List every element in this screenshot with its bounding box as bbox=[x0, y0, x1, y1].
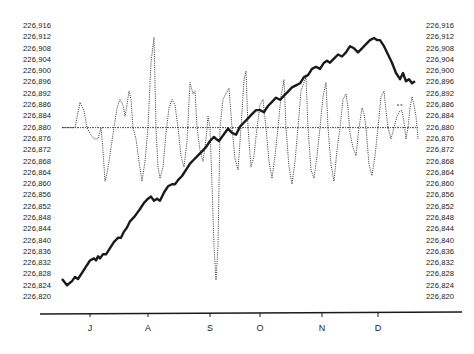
x-tick-label: N bbox=[312, 323, 332, 333]
x-tick-label: D bbox=[368, 323, 388, 333]
x-tick-label: J bbox=[80, 323, 100, 333]
x-tick-label: S bbox=[200, 323, 220, 333]
x-axis-line bbox=[40, 312, 462, 314]
dotted-series-line bbox=[62, 37, 418, 280]
x-tick-label: A bbox=[138, 323, 158, 333]
x-tick-label: O bbox=[250, 323, 270, 333]
plot-area bbox=[0, 0, 474, 354]
